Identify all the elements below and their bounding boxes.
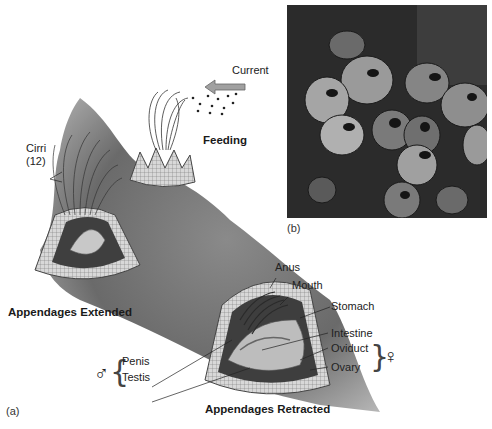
mouth-label: Mouth (292, 279, 323, 292)
male-symbol: ♂ (94, 363, 109, 383)
panel-a-label: (a) (6, 405, 19, 418)
penis-label: Penis (122, 355, 150, 368)
stomach-label: Stomach (331, 300, 374, 313)
testis-label: Testis (122, 371, 150, 384)
feeding-title: Feeding (203, 134, 247, 147)
photo-content (287, 5, 487, 218)
current-label: Current (232, 64, 269, 77)
panel-b-label: (b) (287, 222, 300, 235)
anus-label: Anus (275, 261, 300, 274)
cirri-label: Cirri (26, 142, 46, 155)
cirri-count-label: (12) (26, 155, 46, 168)
ovary-label: Ovary (331, 361, 360, 374)
intestine-label: Intestine (331, 327, 373, 340)
appendages-retracted-title: Appendages Retracted (205, 403, 330, 416)
female-symbol: ♀ (383, 346, 398, 366)
appendages-extended-title: Appendages Extended (8, 306, 132, 319)
feeding-barnacle (130, 90, 195, 187)
current-arrow (205, 80, 245, 94)
barnacle-photo (287, 5, 487, 218)
food-particles (192, 93, 238, 116)
oviduct-label: Oviduct (331, 342, 368, 355)
